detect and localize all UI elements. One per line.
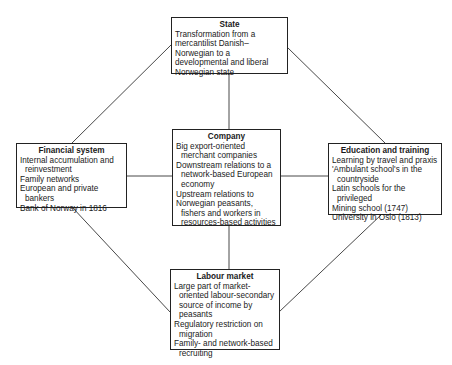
edge-state-financial bbox=[72, 44, 172, 143]
node-item: Mining school (1747) bbox=[332, 204, 438, 214]
edge-state-education bbox=[287, 47, 385, 143]
node-item: Latin schools for the privileged bbox=[332, 184, 438, 203]
node-item: Bank of Norway in 1816 bbox=[20, 204, 123, 214]
node-item: Downstream relations to a network-based … bbox=[176, 161, 277, 190]
node-education-training: Education and training Learning by trave… bbox=[328, 143, 442, 215]
node-title: Company bbox=[176, 132, 277, 142]
node-item: Big export-oriented merchant companies bbox=[176, 142, 277, 161]
edge-financial-labour bbox=[72, 207, 170, 312]
node-item: 'Ambulant school's in the countryside bbox=[332, 165, 438, 184]
node-title: State bbox=[175, 20, 284, 30]
node-financial-system: Financial system Internal accumulation a… bbox=[16, 143, 127, 208]
edge-education-labour bbox=[279, 214, 382, 312]
node-item: Family networks bbox=[20, 175, 123, 185]
node-item: European and private bankers bbox=[20, 184, 123, 203]
node-item: Upstream relations to bbox=[176, 190, 277, 200]
node-item: Family- and network-based recruiting bbox=[174, 339, 276, 358]
node-item: University in Oslo (1813) bbox=[332, 213, 438, 223]
node-labour-market: Labour market Large part of market-orien… bbox=[170, 269, 280, 350]
node-item: Large part of market-oriented labour-sec… bbox=[174, 282, 276, 320]
node-item: Internal accumulation and reinvestment bbox=[20, 156, 123, 175]
node-title: Education and training bbox=[332, 146, 438, 156]
node-item: Regulatory restriction on migration bbox=[174, 320, 276, 339]
node-company: Company Big export-oriented merchant com… bbox=[172, 129, 281, 226]
node-item: Norwegian peasants, fishers and workers … bbox=[176, 199, 277, 228]
node-state: State Transformation from a mercantilist… bbox=[171, 17, 288, 74]
node-title: Labour market bbox=[174, 272, 276, 282]
node-title: Financial system bbox=[20, 146, 123, 156]
node-item: Learning by travel and praxis bbox=[332, 156, 438, 166]
node-item: Transformation from a mercantilist Danis… bbox=[175, 30, 284, 78]
